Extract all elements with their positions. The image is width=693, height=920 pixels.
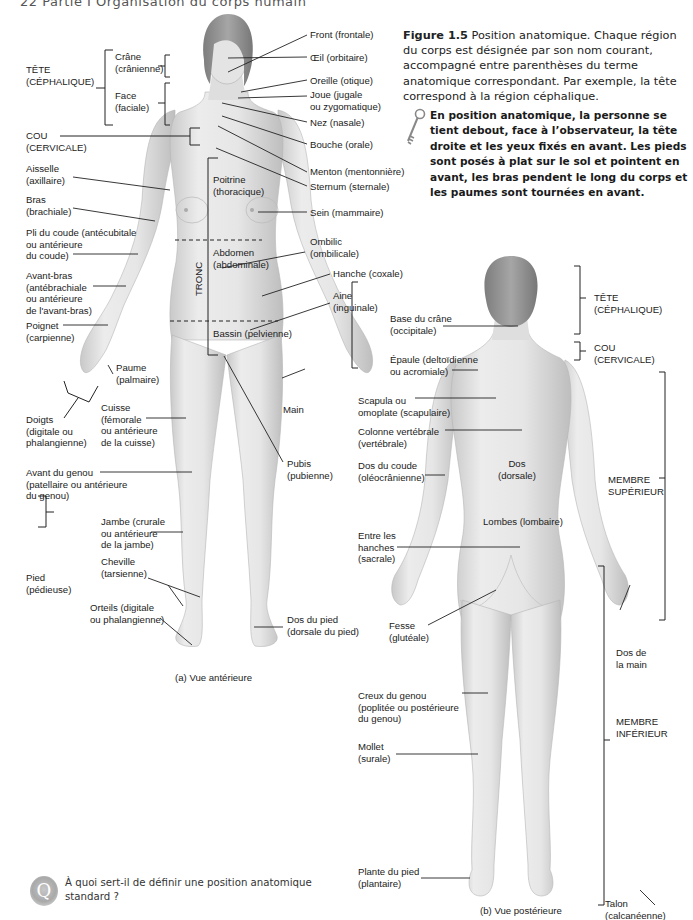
label-bassin: Bassin (pelvienne) [213, 328, 292, 340]
label-nez: Nez (nasale) [310, 117, 364, 129]
label-sternum: Sternum (sternale) [310, 181, 389, 193]
label-entre-hanches: Entre les hanches (sacrale) [358, 530, 396, 565]
label-cheville: Cheville (tarsienne) [101, 556, 147, 579]
label-bras: Bras (brachiale) [26, 194, 71, 217]
key-note: En position anatomique, la personne se t… [430, 108, 692, 200]
label-mollet: Mollet (surale) [358, 741, 391, 764]
label-cou-anterior: COU (CERVICALE) [26, 130, 87, 153]
label-avant-bras: Avant-bras (antébrachiale ou antérieure … [26, 270, 92, 316]
label-cou-posterior: COU (CERVICALE) [594, 342, 655, 365]
label-dos-pied: Dos du pied (dorsale du pied) [287, 614, 359, 637]
label-avant-genou: Avant du genou (patellaire ou antérieure… [26, 467, 127, 502]
figure-caption: Figure 1.5 Position anatomique. Chaque r… [403, 28, 688, 104]
label-plante-pied: Plante du pied (plantaire) [358, 866, 419, 889]
label-aine: Aine (inguinale) [333, 290, 378, 313]
label-abdomen: Abdomen (abdominale) [213, 247, 269, 270]
label-doigts: Doigts (digitale ou phalangienne) [26, 414, 87, 449]
label-colonne: Colonne vertébrale (vertébrale) [358, 426, 439, 449]
label-orteils: Orteils (digitale ou phalangienne) [90, 602, 164, 625]
label-membre-superieur: MEMBRE SUPÉRIEUR [608, 474, 664, 497]
label-ombilic: Ombilic (ombilicale) [310, 236, 359, 259]
label-jambe: Jambe (crurale ou antérieure de la jambe… [101, 516, 165, 551]
posterior-figure [392, 256, 629, 896]
label-bouche: Bouche (orale) [310, 139, 373, 151]
label-poignet: Poignet (carpienne) [26, 320, 75, 343]
label-membre-inferieur: MEMBRE INFÉRIEUR [616, 716, 668, 739]
label-hanche: Hanche (coxale) [333, 268, 403, 280]
label-creux-genou: Creux du genou (poplitée ou postérieure … [358, 690, 459, 725]
label-menton: Menton (mentonnière) [310, 166, 404, 178]
label-lombes: Lombes (lombaire) [483, 516, 563, 528]
question-text: À quoi sert-il de définir une position a… [65, 876, 325, 904]
label-oreille: Oreille (otique) [310, 75, 373, 87]
caption-anterior-view: (a) Vue antérieure [175, 672, 252, 683]
label-sein: Sein (mammaire) [310, 207, 384, 219]
label-main: Main [283, 404, 304, 416]
caption-posterior-view: (b) Vue postérieure [480, 905, 562, 916]
label-cuisse: Cuisse (fémorale ou antérieure de la cui… [101, 402, 158, 448]
label-tete-posterior: TÊTE (CÉPHALIQUE) [594, 292, 662, 315]
label-face: Face (faciale) [115, 90, 149, 113]
label-aisselle: Aisselle (axillaire) [26, 163, 65, 186]
label-base-crane: Base du crâne (occipitale) [390, 313, 452, 336]
label-talon: Talon (calcanéenne) [605, 898, 666, 920]
label-front: Front (frontale) [310, 29, 373, 41]
label-pli-coude: Pli du coude (antécubitale ou antérieure… [26, 227, 136, 262]
label-tronc: TRONC [193, 262, 205, 296]
figure-number: Figure 1.5 [403, 29, 468, 42]
label-pubis: Pubis (pubienne) [287, 458, 333, 481]
label-paume: Paume (palmaire) [116, 362, 159, 385]
label-fesse: Fesse (glutéale) [389, 620, 429, 643]
label-epaule: Épaule (deltoïdienne ou acromiale) [390, 354, 478, 377]
label-dos: Dos (dorsale) [498, 458, 536, 481]
label-crane: Crâne (crânienne) [115, 51, 164, 74]
label-pied: Pied (pédieuse) [26, 572, 71, 595]
label-tete-anterior: TÊTE (CÉPHALIQUE) [26, 64, 94, 87]
key-icon [403, 108, 427, 148]
question-icon: Q [30, 876, 58, 906]
label-joue: Joue (jugale ou zygomatique) [310, 89, 381, 112]
label-poitrine: Poitrine (thoracique) [213, 174, 264, 197]
label-dos-main: Dos de la main [616, 647, 647, 670]
label-dos-coude: Dos du coude (oléocrânienne) [358, 460, 425, 483]
label-scapula: Scapula ou omoplate (scapulaire) [358, 395, 450, 418]
label-oeil: Œil (orbitaire) [310, 52, 368, 64]
